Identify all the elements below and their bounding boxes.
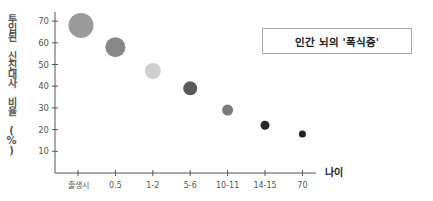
y-tick-label: 50 [38,60,49,70]
x-axis-label: 나이 [325,166,343,178]
x-tick-label: 1-2 [146,181,159,190]
chart-title-box: 인간 뇌의 '폭식증' [262,28,412,54]
x-tick-label: 0.5 [109,181,122,190]
x-tick-label: 14-15 [253,181,276,190]
x-tick-label: 5-6 [184,181,197,190]
x-axis: 출생시0.51-25-610-1114-1570 [55,170,316,190]
y-tick-label: 40 [38,81,49,91]
y-tick-label: 30 [38,103,49,113]
bubble-point [183,81,197,95]
bubble-point [105,37,125,57]
y-tick-label: 60 [38,38,49,48]
chart-title: 인간 뇌의 '폭식증' [295,34,379,49]
y-tick-label: 20 [38,125,49,135]
x-tick-label: 10-11 [216,181,239,190]
bubble-point [222,105,233,116]
y-tick-label: 70 [38,16,49,26]
x-tick-label: 출생시 [68,180,89,190]
bubble-point [299,130,306,137]
y-tick-label: 10 [38,146,49,156]
bubble-point [69,13,94,38]
y-axis-label: 투입된 신진대사 비율 (%) [2,14,18,155]
bubble-point [261,121,270,130]
y-axis: 10203040506070 [38,12,58,173]
x-tick-label: 70 [297,181,307,190]
bubble-point [145,63,161,79]
